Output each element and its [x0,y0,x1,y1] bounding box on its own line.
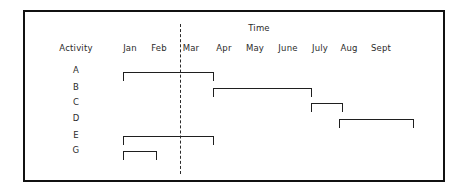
x-axis-tick-label-sept: Sept [371,44,391,53]
gantt-bar-end-cap-d [413,119,414,128]
gantt-bar-rule-e [123,136,214,137]
activity-row-label-c: C [73,98,79,107]
gantt-bar-start-cap-d [339,119,340,128]
gantt-bar-b [213,88,312,97]
gantt-bar-rule-c [311,103,343,104]
gantt-chart-figure: TimeActivityJanFebMarAprMayJuneJulyAugSe… [0,0,468,192]
gantt-bar-rule-b [213,88,312,89]
x-axis-tick-label-jan: Jan [123,44,137,53]
x-axis-tick-label-may: May [246,44,264,53]
activity-row-label-g: G [73,146,80,155]
chart-frame-border: TimeActivityJanFebMarAprMayJuneJulyAugSe… [23,10,445,182]
gantt-bar-start-cap-a [123,72,124,81]
x-axis-tick-label-mar: Mar [183,44,200,53]
gantt-bar-start-cap-g [123,151,124,160]
x-axis-tick-label-aug: Aug [340,44,357,53]
x-axis-tick-label-july: July [312,44,328,53]
gantt-bar-d [339,119,414,128]
gantt-bar-rule-a [123,72,214,73]
milestone-dashed-line [180,24,181,174]
gantt-bar-end-cap-b [311,88,312,97]
x-axis-tick-label-feb: Feb [151,44,167,53]
gantt-bar-start-cap-e [123,136,124,145]
activity-row-label-e: E [73,131,79,140]
activity-row-label-b: B [73,83,79,92]
gantt-bar-rule-g [123,151,157,152]
chart-title: Time [248,24,270,33]
activity-row-label-d: D [73,114,80,123]
gantt-bar-start-cap-c [311,103,312,112]
gantt-bar-end-cap-c [342,103,343,112]
x-axis-tick-label-june: June [278,44,297,53]
gantt-bar-a [123,72,214,81]
gantt-bar-end-cap-e [213,136,214,145]
activity-row-label-a: A [73,66,79,75]
gantt-bar-start-cap-b [213,88,214,97]
gantt-bar-end-cap-g [156,151,157,160]
gantt-bar-rule-d [339,119,414,120]
gantt-bar-g [123,151,157,160]
gantt-bar-e [123,136,214,145]
activity-column-header: Activity [59,44,92,53]
gantt-bar-c [311,103,343,112]
x-axis-tick-label-apr: Apr [216,44,231,53]
gantt-bar-end-cap-a [213,72,214,81]
